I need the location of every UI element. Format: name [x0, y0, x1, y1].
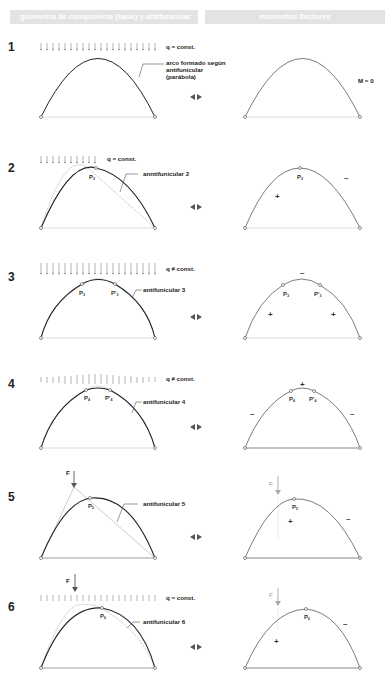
- svg-text:q ≠ const.: q ≠ const.: [166, 265, 195, 272]
- arch-2: [41, 167, 155, 228]
- row-1-right: M = 0: [244, 59, 375, 119]
- row-4-left: q ≠ const. P4 P'4 antifunicular 4: [40, 374, 196, 450]
- svg-text:–: –: [250, 409, 255, 418]
- svg-text:P2: P2: [89, 174, 95, 181]
- svg-text:q ≠ const.: q ≠ const.: [166, 375, 195, 382]
- row-2-left: q = const. P2 anntifunicular 2: [40, 155, 190, 230]
- svg-text:antifunicular 4: antifunicular 4: [143, 398, 186, 405]
- leader-line: [139, 64, 164, 77]
- svg-text:P6: P6: [100, 613, 106, 620]
- svg-text:P4: P4: [289, 396, 295, 403]
- row-6-left: F q = const. P6 antifunicular 6: [40, 574, 196, 670]
- row-5-right: F P5 + –: [244, 476, 362, 560]
- distributed-load-icon: [40, 43, 156, 51]
- svg-text:P'4: P'4: [309, 396, 316, 403]
- svg-text:F: F: [66, 577, 70, 584]
- row-1-left: q = const. arco formado según antifunicu…: [40, 43, 226, 119]
- svg-text:P'3: P'3: [314, 291, 321, 298]
- row-6-right: F P6 + –: [244, 588, 362, 670]
- svg-text:antifunicular 3: antifunicular 3: [143, 286, 186, 293]
- svg-text:(parábola): (parábola): [166, 73, 196, 80]
- svg-text:+: +: [300, 380, 305, 389]
- svg-text:anntifunicular 2: anntifunicular 2: [143, 170, 190, 177]
- compare-arrows-icon: [190, 204, 202, 210]
- support-left: [40, 116, 43, 119]
- row-3-right: P3 P'3 – + +: [244, 268, 362, 340]
- row-2-right: P2 + –: [244, 167, 362, 230]
- moment-label: M = 0: [358, 77, 374, 84]
- svg-text:+: +: [274, 637, 279, 646]
- force-arrowhead-icon: [72, 587, 78, 592]
- svg-text:F: F: [66, 469, 70, 476]
- row-5-left: F P5 antifunicular 5: [40, 469, 186, 560]
- force-arrowhead-icon: [275, 601, 281, 606]
- svg-text:P'4: P'4: [105, 395, 112, 402]
- svg-text:–: –: [344, 173, 349, 182]
- svg-text:P3: P3: [283, 291, 289, 298]
- row-3-left: q ≠ const. P3 P'3 antifunicular 3: [40, 263, 196, 340]
- svg-text:+: +: [268, 310, 273, 319]
- svg-text:P5: P5: [292, 504, 298, 511]
- svg-text:q = const.: q = const.: [166, 594, 195, 601]
- svg-text:–: –: [343, 619, 348, 628]
- compare-arrows-icon: [190, 314, 202, 320]
- moment-arch: [245, 59, 360, 118]
- distributed-load-icon: [41, 595, 155, 601]
- svg-text:P'3: P'3: [111, 290, 118, 297]
- load-label: q = const.: [166, 43, 195, 50]
- parabolic-arch: [41, 59, 155, 118]
- distributed-load-icon: [40, 156, 96, 164]
- svg-text:+: +: [275, 192, 280, 201]
- svg-text:P2: P2: [297, 174, 303, 181]
- svg-text:–: –: [346, 514, 351, 523]
- curve-label: arco formado según: [166, 59, 226, 66]
- svg-text:F: F: [269, 591, 273, 598]
- svg-text:–: –: [350, 409, 355, 418]
- svg-text:+: +: [288, 517, 293, 526]
- compare-arrows-icon: [190, 424, 202, 430]
- svg-text:P4: P4: [84, 395, 90, 402]
- support-right: [154, 116, 157, 119]
- compare-arrows-icon: [190, 94, 202, 100]
- svg-text:q = const.: q = const.: [107, 155, 136, 162]
- diagram-canvas: q = const. arco formado según antifunicu…: [0, 0, 385, 673]
- svg-text:–: –: [300, 268, 305, 277]
- svg-text:antifunicular 5: antifunicular 5: [143, 500, 186, 507]
- compare-arrows-icon: [190, 644, 202, 650]
- force-arrowhead-icon: [275, 490, 281, 495]
- compare-arrows-icon: [190, 534, 202, 540]
- svg-text:antifunicular 6: antifunicular 6: [143, 618, 186, 625]
- svg-text:+: +: [331, 310, 336, 319]
- svg-text:P6: P6: [304, 614, 310, 621]
- variable-load-icon: [40, 263, 156, 275]
- svg-text:F: F: [269, 480, 273, 487]
- svg-text:P3: P3: [79, 290, 85, 297]
- variable-load-icon: [41, 374, 155, 384]
- row-4-right: P4 P'4 + – –: [244, 380, 362, 450]
- svg-text:antifunicular: antifunicular: [166, 66, 204, 73]
